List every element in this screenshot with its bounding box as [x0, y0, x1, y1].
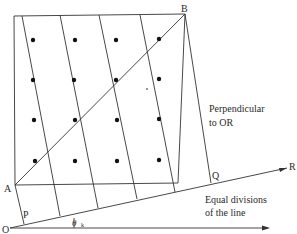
label-O: O: [2, 224, 9, 234]
perpendicular-3: [99, 15, 137, 199]
perpendicular-1: [22, 16, 60, 216]
perpendicular-annotation-line1: Perpendicular: [209, 103, 265, 114]
label-theta-subscript: k: [81, 222, 84, 228]
label-A: A: [4, 183, 12, 194]
label-Q: Q: [212, 170, 220, 181]
equal-divisions-annotation-line2: of the line: [205, 207, 246, 218]
arrowhead-R: [279, 168, 287, 172]
label-theta: θ: [72, 218, 77, 228]
equal-divisions-annotation-line1: Equal divisions: [205, 194, 267, 205]
arrowhead-horizontal: [262, 226, 270, 231]
dots-grid: [31, 37, 161, 163]
geometry-diagram: B A O P Q R θ k Perpendicular to OR Equa…: [0, 0, 297, 234]
perpendicular-2: [60, 15, 98, 208]
label-P: P: [23, 209, 29, 220]
right-edge-vertical: [178, 14, 185, 183]
perpendicular-BQ: [185, 14, 211, 183]
label-R: R: [289, 161, 296, 172]
horizontal-line-AQ: [15, 183, 178, 185]
label-B: B: [181, 3, 188, 14]
left-edge: [14, 16, 15, 185]
perpendicular-annotation-line2: to OR: [209, 117, 234, 128]
